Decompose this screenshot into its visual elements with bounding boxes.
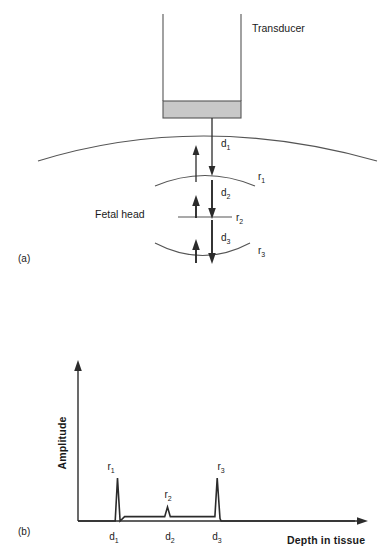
reflector-label-r2: r2	[236, 212, 243, 225]
fetal-head-label: Fetal head	[95, 208, 145, 220]
x-axis-label: Depth in tissue	[287, 534, 365, 546]
x-tick-label-d3: d3	[212, 531, 222, 544]
transducer-crystal	[163, 101, 241, 118]
y-axis	[74, 360, 82, 521]
y-axis-label: Amplitude	[56, 416, 68, 469]
up-arrow-echo-r3	[192, 239, 200, 263]
transducer-label: Transducer	[252, 22, 305, 34]
echo-amplitude-trace	[78, 478, 355, 521]
x-tick-labels: d1 d2 d3	[109, 531, 222, 544]
distance-label-d2: d2	[221, 187, 231, 200]
peak-label-r3: r3	[217, 461, 224, 474]
reflector-label-r1: r1	[258, 171, 265, 184]
down-arrow-d3	[208, 220, 216, 264]
body-surface-curve	[38, 136, 377, 161]
up-arrow-echo-r2	[192, 195, 200, 218]
panel-a-diagram: Transducer Fetal head	[18, 14, 377, 264]
distance-label-d3: d3	[221, 232, 231, 245]
up-arrows-group	[192, 145, 200, 263]
transducer-body	[163, 14, 241, 101]
down-arrow-d1	[209, 118, 216, 176]
peak-label-r1: r1	[107, 461, 114, 474]
peak-label-r2: r2	[164, 489, 171, 502]
x-tick-label-d1: d1	[109, 531, 119, 544]
figure-container: Transducer Fetal head	[0, 0, 385, 557]
x-tick-label-d2: d2	[165, 531, 175, 544]
distance-labels: d1 d2 d3	[221, 138, 231, 245]
reflector-arc-r1	[155, 176, 255, 187]
distance-label-d1: d1	[221, 138, 231, 151]
reflector-label-r3: r3	[258, 245, 265, 258]
panel-b-chart: Amplitude Depth in tissue r1 r2 r3	[18, 360, 368, 546]
down-arrows-group	[208, 118, 216, 264]
down-arrow-d2	[208, 180, 216, 219]
panel-caption-b: (b)	[18, 526, 30, 537]
reflector-arc-r3	[155, 243, 250, 256]
ultrasound-figure: Transducer Fetal head	[0, 0, 385, 557]
panel-caption-a: (a)	[18, 253, 30, 264]
peak-annotations: r1 r2 r3	[107, 461, 224, 502]
